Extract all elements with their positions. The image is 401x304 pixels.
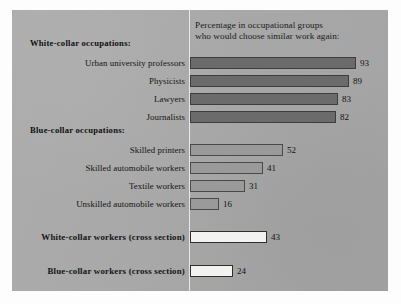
bar-row-label: White-collar workers (cross section) xyxy=(41,231,185,243)
bar xyxy=(190,198,219,210)
bar-row-label: Skilled printers xyxy=(130,144,185,156)
bar-value-label: 41 xyxy=(267,162,276,174)
bar-row-label: Skilled automobile workers xyxy=(86,162,185,174)
bar-value-label: 89 xyxy=(353,75,362,87)
bar-row: Journalists82 xyxy=(12,111,388,123)
bar-value-label: 24 xyxy=(237,265,246,277)
bar-row: White-collar workers (cross section)43 xyxy=(12,231,388,243)
bar-row-label: Physicists xyxy=(149,75,185,87)
bar-row: Lawyers83 xyxy=(12,93,388,105)
bar xyxy=(190,111,336,123)
bar-row: Unskilled automobile workers16 xyxy=(12,198,388,210)
baseline-axis xyxy=(189,10,190,291)
bar-row-label: Journalists xyxy=(146,111,185,123)
bar-value-label: 43 xyxy=(271,231,280,243)
bar-row-label: Urban university professors xyxy=(85,57,185,69)
bar xyxy=(190,162,263,174)
bar xyxy=(190,75,349,87)
chart-title-line-2: who would choose similar work again: xyxy=(195,31,385,42)
chart-title-line-1: Percentage in occupational groups xyxy=(195,20,385,31)
bar-row: Textile workers31 xyxy=(12,180,388,192)
bar-value-label: 93 xyxy=(360,57,369,69)
bar xyxy=(190,180,245,192)
bar-row: Urban university professors93 xyxy=(12,57,388,69)
bar-value-label: 31 xyxy=(249,180,258,192)
bar xyxy=(190,144,283,156)
section-header-2: Blue-collar occupations: xyxy=(30,125,125,135)
bar-row-label: Lawyers xyxy=(154,93,185,105)
bar-row-label: Textile workers xyxy=(129,180,185,192)
bar-value-label: 16 xyxy=(223,198,232,210)
bar-row-label: Blue-collar workers (cross section) xyxy=(47,265,185,277)
chart-panel: Percentage in occupational groups who wo… xyxy=(12,10,388,291)
bar-row-label: Unskilled automobile workers xyxy=(76,198,185,210)
bar xyxy=(190,57,356,69)
bar-row: Skilled automobile workers41 xyxy=(12,162,388,174)
bar xyxy=(190,93,338,105)
bar xyxy=(190,265,233,277)
bar-row: Blue-collar workers (cross section)24 xyxy=(12,265,388,277)
bar-row: Skilled printers52 xyxy=(12,144,388,156)
bar-value-label: 82 xyxy=(340,111,349,123)
section-header-1: White-collar occupations: xyxy=(30,38,131,48)
bar-value-label: 83 xyxy=(342,93,351,105)
bar-value-label: 52 xyxy=(287,144,296,156)
figure: Percentage in occupational groups who wo… xyxy=(0,0,401,304)
bar-row: Physicists89 xyxy=(12,75,388,87)
bar xyxy=(190,231,267,243)
chart-title: Percentage in occupational groups who wo… xyxy=(195,20,385,43)
